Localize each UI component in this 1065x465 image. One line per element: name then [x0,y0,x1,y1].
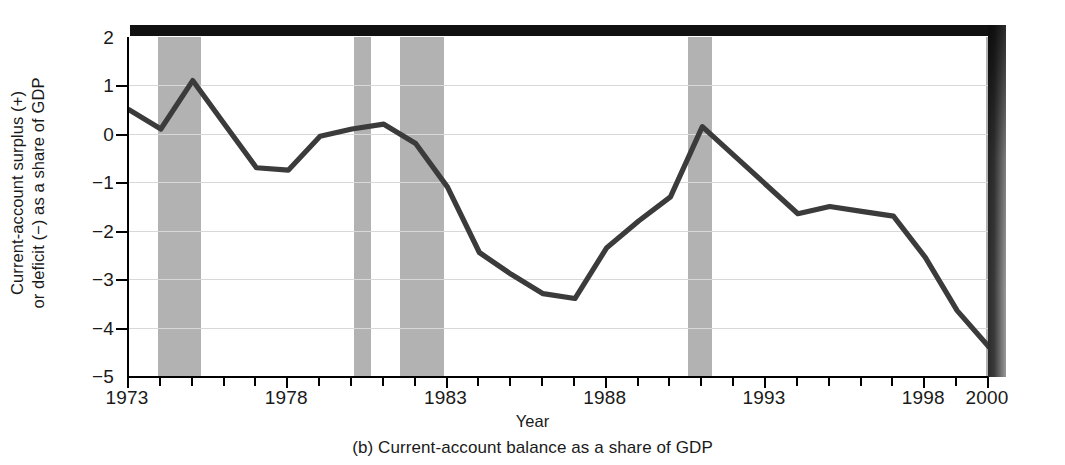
x-axis-tick-mark [700,377,702,386]
plot-inner [129,37,989,376]
series-line-current-account [129,37,989,376]
x-axis-tick-label: 1978 [265,388,308,408]
x-axis-tick-mark [223,377,225,386]
x-axis-tick-label: 1993 [742,388,785,408]
y-axis-tick-label: 0 [70,124,114,143]
x-axis-tick-mark [159,377,161,386]
x-axis-tick-mark [573,377,575,386]
y-axis-tick-mark [116,231,127,233]
y-axis-tick-label: 1 [70,76,114,95]
x-axis-tick-label: 1988 [583,388,626,408]
x-axis-tick-mark [955,377,957,386]
right-edge-shadow-fade [988,25,1006,377]
x-axis-title: Year [0,412,1065,431]
x-axis-tick-mark [191,377,193,386]
x-axis-tick-mark [318,377,320,386]
y-axis-tick-mark [116,182,127,184]
y-axis-title-container: Current-account surplus (+) or deficit (… [0,0,56,385]
y-axis-tick-mark [116,279,127,281]
y-axis-title-line-1: Current-account surplus (+) [7,77,28,308]
y-axis-tick-mark [116,85,127,87]
y-axis-tick-label: −3 [70,270,114,289]
x-axis-tick-mark [860,377,862,386]
y-axis-tick-label: −1 [70,173,114,192]
y-axis-tick-label: −5 [70,367,114,386]
y-axis-title-line-2: or deficit (−) as a share of GDP [28,77,49,308]
x-axis-tick-mark [382,377,384,386]
x-axis-tick-label: 1983 [424,388,467,408]
x-axis-tick-label: 2000 [965,388,1008,408]
x-axis-tick-mark [477,377,479,386]
top-black-bar [130,25,1006,36]
x-axis-tick-mark [509,377,511,386]
x-axis-tick-mark [732,377,734,386]
x-axis-tick-label: 1998 [902,388,945,408]
plot-area [127,37,989,378]
x-axis-tick-mark [541,377,543,386]
x-axis-tick-mark [668,377,670,386]
y-axis-tick-label: 2 [70,28,114,47]
x-axis-tick-label: 1973 [105,388,148,408]
y-axis-tick-label: −4 [70,318,114,337]
x-axis-tick-mark [254,377,256,386]
x-axis-tick-mark [796,377,798,386]
x-axis-tick-mark [828,377,830,386]
y-axis-tick-mark [116,134,127,136]
x-axis-tick-mark [891,377,893,386]
x-axis-tick-mark [414,377,416,386]
x-axis-tick-mark [350,377,352,386]
y-axis-title: Current-account surplus (+) or deficit (… [7,77,49,308]
y-axis-tick-label: −2 [70,221,114,240]
figure-current-account-balance: Current-account surplus (+) or deficit (… [0,0,1065,465]
x-axis-tick-mark [637,377,639,386]
x-axis-tick-labels: 1973197819831988199319982000 [127,388,1007,412]
y-axis-tick-mark [116,328,127,330]
figure-caption: (b) Current-account balance as a share o… [0,438,1065,458]
